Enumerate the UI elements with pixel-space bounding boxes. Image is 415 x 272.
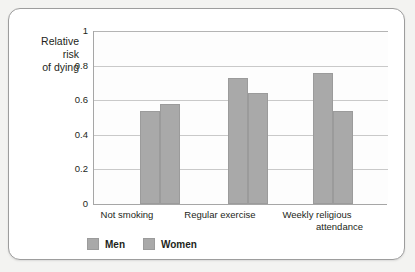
bar-men-weekly-religious-attendance[interactable] — [313, 73, 333, 205]
x-category-label-weekly-religious-attendance-line-1: Weekly religious — [271, 209, 363, 221]
bar-group-regular-exercise — [214, 31, 282, 204]
bar-men-not-smoking[interactable] — [140, 111, 160, 204]
legend-label-men: Men — [105, 239, 125, 250]
bar-women-regular-exercise[interactable] — [248, 93, 268, 204]
y-tick-label-0: 0 — [58, 198, 88, 209]
x-axis-line — [93, 204, 387, 205]
x-category-label-regular-exercise: Regular exercise — [177, 209, 263, 221]
bar-group-weekly-religious-attendance — [299, 31, 367, 204]
bar-women-weekly-religious-attendance[interactable] — [333, 111, 353, 204]
x-category-label-weekly-religious-attendance-line-2: attendance — [271, 221, 363, 233]
y-tick-label-0-2: 0.2 — [58, 163, 88, 174]
legend-swatch-women-icon — [143, 238, 155, 250]
bar-women-not-smoking[interactable] — [160, 104, 180, 204]
legend-label-women: Women — [161, 239, 197, 250]
y-tick-label-1: 1 — [58, 25, 88, 36]
bar-chart: Relative risk of dying 1 0.8 0.6 0.4 0.2… — [9, 9, 406, 261]
chart-legend: Men Women — [87, 238, 197, 250]
plot-region — [93, 31, 388, 204]
y-axis-title-line-1: Relative — [13, 35, 79, 48]
y-tick-label-0-4: 0.4 — [58, 129, 88, 140]
legend-item-women[interactable]: Women — [143, 238, 197, 250]
bar-men-regular-exercise[interactable] — [228, 78, 248, 204]
figure-frame: Relative risk of dying 1 0.8 0.6 0.4 0.2… — [8, 8, 405, 260]
legend-item-men[interactable]: Men — [87, 238, 125, 250]
bar-group-not-smoking — [126, 31, 194, 204]
x-category-label-not-smoking: Not smoking — [93, 209, 161, 221]
x-category-label-weekly-religious-attendance: Weekly religious attendance — [271, 209, 363, 232]
x-category-label-regular-exercise-line-1: Regular exercise — [177, 209, 263, 221]
y-tick-label-0-6: 0.6 — [58, 94, 88, 105]
y-tick-label-0-8: 0.8 — [58, 60, 88, 71]
x-category-label-not-smoking-line-1: Not smoking — [93, 209, 161, 221]
legend-swatch-men-icon — [87, 238, 99, 250]
